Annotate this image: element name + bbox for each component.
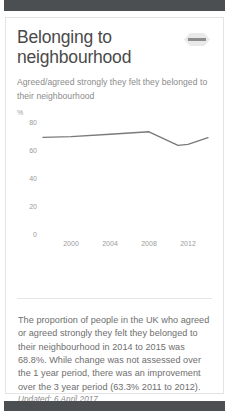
svg-text:0: 0 — [33, 231, 37, 238]
content-divider — [17, 298, 212, 299]
svg-text:80: 80 — [29, 119, 37, 126]
svg-text:60: 60 — [29, 147, 37, 154]
svg-text:40: 40 — [29, 175, 37, 182]
svg-text:20: 20 — [29, 203, 37, 210]
card-header: Belonging to neighbourhood — [17, 27, 212, 67]
line-chart: % 80 60 40 20 0 2000 2004 2008 2012 — [17, 110, 214, 247]
svg-text:2012: 2012 — [180, 240, 196, 247]
chart-svg: 80 60 40 20 0 2000 2004 2008 2012 — [17, 110, 214, 247]
chart-line-series-1 — [43, 132, 208, 146]
y-axis-ticks: 80 60 40 20 0 — [29, 119, 37, 238]
svg-text:2004: 2004 — [102, 240, 118, 247]
x-axis-ticks: 2000 2004 2008 2012 — [63, 240, 196, 247]
browser-chrome-bottom — [4, 401, 225, 411]
page-title: Belonging to neighbourhood — [17, 27, 177, 67]
svg-text:2000: 2000 — [63, 240, 79, 247]
statistic-card: Belonging to neighbourhood Agreed/agreed… — [5, 17, 224, 394]
y-axis-unit-label: % — [17, 109, 23, 116]
card-body-text: The proportion of people in the UK who a… — [18, 314, 212, 394]
no-change-arrow-icon — [184, 31, 210, 52]
page-root: Belonging to neighbourhood Agreed/agreed… — [0, 0, 229, 415]
card-subtitle: Agreed/agreed strongly they felt they be… — [17, 76, 212, 103]
browser-chrome-top — [4, 0, 225, 11]
svg-text:2008: 2008 — [141, 240, 157, 247]
